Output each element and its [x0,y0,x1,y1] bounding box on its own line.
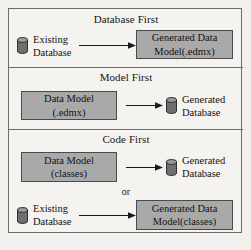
section-title-database-first: Database First [9,13,243,26]
section-divider-1 [9,67,243,68]
data-model-edmx-box: Data Model (.edmx) [21,91,117,120]
diagram-frame: Database First Existing Database Generat… [8,8,242,233]
database-cylinder-icon [166,159,177,176]
data-model-classes-box: Data Model (classes) [21,152,117,182]
section-divider-2 [9,129,243,130]
arrow-right-icon [79,211,137,220]
generated-data-model-edmx-box: Generated Data Model(.edmx) [136,30,233,59]
existing-database-label: Existing Database [33,202,71,228]
existing-database-label: Existing Database [33,33,71,59]
database-cylinder-icon [17,207,28,224]
generated-database-label: Generated Database [182,154,225,180]
arrow-right-icon [126,101,164,110]
arrow-right-icon [79,41,137,50]
database-cylinder-icon [166,97,177,114]
entity-framework-approaches-diagram: Database First Existing Database Generat… [0,0,251,250]
generated-database-label: Generated Database [182,93,225,119]
section-title-code-first: Code First [9,133,243,146]
arrow-right-icon [126,163,164,172]
or-connector-label: or [9,186,243,198]
database-cylinder-icon [17,37,28,54]
section-title-model-first: Model First [9,71,243,84]
generated-data-model-classes-box: Generated Data Model(classes) [136,200,233,230]
